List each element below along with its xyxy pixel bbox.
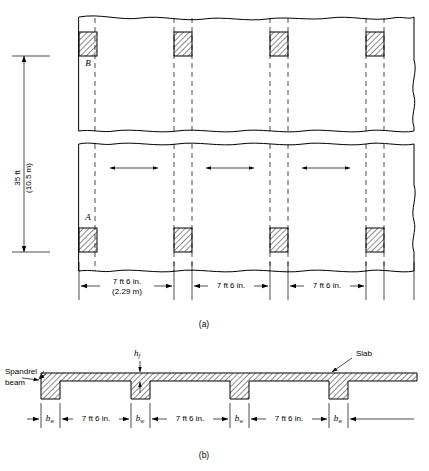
grid-letter-b: B [85,58,91,68]
column [79,32,97,56]
plan-horizontal-dimensions: 7 ft 6 in. (2.29 m) 7 ft 6 in. 7 ft 6 in… [79,262,414,300]
slab-leader [332,358,352,372]
plan-lower-strip [79,143,415,272]
section-profile [41,373,417,399]
slab-annotation: Slab [332,349,373,372]
column [174,32,192,56]
section-dimensions: 7 ft 6 in. 7 ft 6 in. 7 ft 6 in. bw bw b… [27,403,414,428]
caption-section: (b) [199,450,210,460]
slab-and-beams-section [41,373,417,399]
web-width-label-3: bw [235,413,244,424]
spandrel-label-line2: beam [5,378,25,387]
plan-upper-columns [79,32,384,56]
vertical-dim-label-line1: 35 ft [13,169,22,185]
spandrel-label-line1: Spandrel [5,367,37,376]
vertical-dim-label-line2: (10.5 m) [24,163,33,193]
column [79,228,97,252]
spandrel-beam-annotation: Spandrel beam [5,367,46,387]
bay-dim-1-line1: 7 ft 6 in. [113,277,141,286]
plan-upper-strip [79,16,415,132]
caption-plan: (a) [199,319,210,329]
column [366,32,384,56]
upper-strip-outline [79,16,415,132]
bay-dim-1-line2: (2.29 m) [112,287,142,296]
bay-dim-2-line1: 7 ft 6 in. [217,281,245,290]
web-width-label-2: bw [136,413,145,424]
grid-letter-a: A [84,212,91,222]
column [174,228,192,252]
engineering-figure: B A [0,0,429,471]
slab-label: Slab [356,349,373,358]
web-width-label-4: bw [334,413,343,424]
section-bay-dim-3: 7 ft 6 in. [275,414,303,423]
plan-lower-dashed-lines [95,144,384,271]
section-bay-dim-2: 7 ft 6 in. [176,414,204,423]
section-bay-dim-1: 7 ft 6 in. [82,414,110,423]
plan-lower-columns [79,228,384,252]
figure-root: B A [0,0,429,471]
column [270,32,288,56]
bay-dim-3-line1: 7 ft 6 in. [313,281,341,290]
lower-strip-outline [79,143,415,272]
plan-upper-dashed-lines [95,18,384,131]
plan-vertical-dimension: 35 ft (10.5 m) [12,56,50,252]
web-width-label-1: bw [46,413,55,424]
slab-thickness-symbol: hf [134,348,142,359]
column [270,228,288,252]
column [366,228,384,252]
